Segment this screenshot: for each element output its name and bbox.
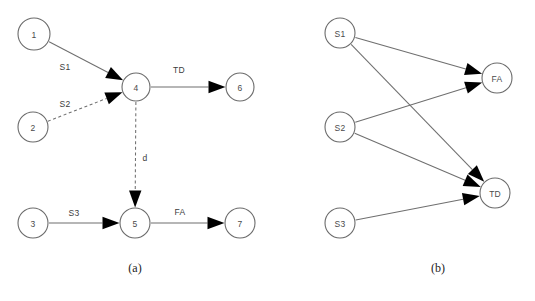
panel-a-edge-label-e-2-4: S2 <box>60 99 71 109</box>
arrowhead-icon <box>103 217 120 229</box>
panel-b-caption: (b) <box>431 261 445 275</box>
edge-line <box>355 88 466 123</box>
node-label: S2 <box>335 123 346 133</box>
panel-a-edge-n5-to-n7 <box>151 217 225 229</box>
panel-a-node-n1[interactable]: 1 <box>18 18 50 50</box>
edge-line <box>355 37 465 69</box>
node-label: TD <box>489 189 501 199</box>
panel-a-node-n6[interactable]: 6 <box>226 73 254 101</box>
node-label: 6 <box>238 83 243 93</box>
node-label: FA <box>492 74 503 84</box>
diagram-canvas: 1234567 S1S2TDdS3FA S1S2S3FATD (a) (b) <box>0 0 535 301</box>
arrowhead-icon <box>209 81 226 93</box>
panel-a-edge-label-e-3-5: S3 <box>69 208 80 218</box>
figure-root: 1234567 S1S2TDdS3FA S1S2S3FATD (a) (b) <box>0 0 535 301</box>
panel-b-edge-s2-to-td <box>355 133 481 187</box>
panel-a-edge-label-e-4-5: d <box>142 153 147 163</box>
edge-line <box>49 42 108 73</box>
panel-a-edge-label-e-1-4: S1 <box>60 62 71 72</box>
node-label: S3 <box>335 219 346 229</box>
node-label: 4 <box>134 83 139 93</box>
panel-a-edge-label-e-5-7: FA <box>175 207 186 217</box>
panel-a-edge-n4-to-n6 <box>151 81 226 93</box>
panel-a-caption: (a) <box>128 261 141 275</box>
panel-a-node-n5[interactable]: 5 <box>120 208 150 238</box>
node-label: 3 <box>31 219 36 229</box>
edge-line <box>135 102 136 191</box>
panel-b-node-fa[interactable]: FA <box>482 63 512 93</box>
node-label: S1 <box>335 29 346 39</box>
panel-b-node-layer: S1S2S3FATD <box>325 18 512 238</box>
panel-b-edge-s2-to-fa <box>355 82 482 122</box>
node-label: 2 <box>31 123 36 133</box>
edge-line <box>351 44 472 169</box>
panel-a-node-n4[interactable]: 4 <box>122 73 150 101</box>
arrowhead-icon <box>104 92 122 104</box>
arrowhead-icon <box>208 217 225 229</box>
node-label: 1 <box>32 30 37 40</box>
panel-b-node-td[interactable]: TD <box>480 178 510 208</box>
edge-line <box>355 133 465 180</box>
panel-a-edge-layer <box>48 42 226 229</box>
panel-a-node-n2[interactable]: 2 <box>18 112 48 142</box>
panel-a-edge-n3-to-n5 <box>49 217 120 229</box>
arrowhead-icon <box>464 63 482 75</box>
arrowhead-icon <box>129 190 141 207</box>
node-label: 5 <box>133 219 138 229</box>
panel-a-edge-n4-to-n5 <box>129 102 141 208</box>
panel-a-edge-label-e-4-6: TD <box>173 65 185 75</box>
panel-b-edge-layer <box>351 37 484 220</box>
panel-a-node-n3[interactable]: 3 <box>18 208 48 238</box>
panel-b-edge-s1-to-td <box>351 44 484 181</box>
panel-b-node-s1[interactable]: S1 <box>325 18 355 48</box>
panel-a-node-layer: 1234567 <box>18 18 255 238</box>
node-label: 7 <box>238 219 243 229</box>
panel-a-node-n7[interactable]: 7 <box>225 208 255 238</box>
panel-b-node-s2[interactable]: S2 <box>325 112 355 142</box>
edge-line <box>48 98 107 121</box>
arrowhead-icon <box>105 67 123 80</box>
panel-b-edge-s3-to-td <box>356 193 480 220</box>
arrowhead-icon <box>462 193 480 205</box>
panel-b-edge-s1-to-fa <box>355 37 482 75</box>
edge-line <box>356 199 463 220</box>
panel-b-node-s3[interactable]: S3 <box>325 208 355 238</box>
arrowhead-icon <box>464 82 482 94</box>
